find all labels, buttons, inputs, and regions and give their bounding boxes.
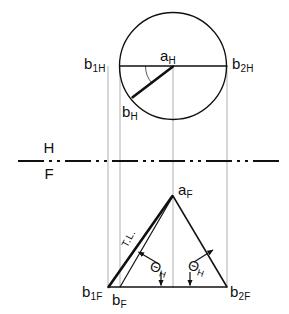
label-a-f: aF [178,182,193,200]
label-theta-left: ΘH [150,259,167,278]
top-view-angle-arc [145,66,152,84]
label-b-h: bH [122,104,138,122]
geometry-figure [0,0,289,314]
drawing-canvas: aH b1H b2H bH H F aF b1F bF b2F T.L. ΘH … [0,0,289,314]
label-a-h: aH [160,48,176,66]
label-b2-f: b2F [230,284,250,302]
label-theta-right: ΘH [188,258,205,277]
label-b1-f: b1F [82,284,102,302]
fold-label-h: H [38,139,60,156]
top-view-bold-radius [133,67,173,98]
fold-label-f: F [38,165,60,182]
label-b2-h: b2H [232,56,254,74]
label-b1-h: b1H [84,56,106,74]
label-b-f: bF [112,292,127,310]
projector-lines [108,66,227,288]
